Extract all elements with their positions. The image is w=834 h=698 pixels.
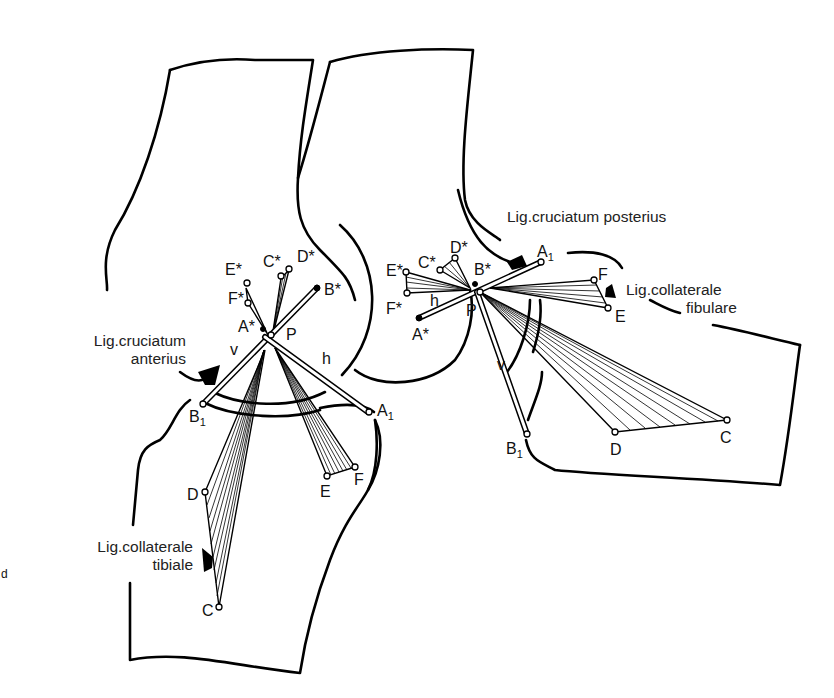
label-F: F [598,266,608,283]
label-lig-cruciatum-anterius-2: anterius [131,350,186,367]
label-lig-collaterale-tibiale-1: Lig.collaterale [97,538,193,555]
point-C [724,417,730,423]
left-knee: E* C* D* F* B* A* P v h B1 A1 D C E F Li… [94,59,394,673]
label-B1: B1 [506,440,523,460]
right-knee: Lig.cruciatum posterius Lig.collaterale … [298,49,800,485]
label-D: D [187,486,199,503]
label-lig-collaterale-fibulare-2: fibulare [686,299,737,316]
label-D-star: D* [450,239,468,256]
label-lig-collaterale-tibiale-2: tibiale [153,556,194,573]
point-C-star [437,267,443,273]
label-C: C [720,429,732,446]
left-tibia-outline [133,400,190,525]
left-anterior-arrow-icon [198,365,220,385]
point-C [216,604,222,610]
label-lig-cruciatum-posterius: Lig.cruciatum posterius [507,208,667,225]
label-A1: A1 [377,402,394,422]
right-femur-outline [330,49,500,240]
label-v: v [230,341,238,358]
point-E [324,473,330,479]
right-arc-4 [528,372,542,420]
point-D [202,489,208,495]
right-tibia-top [713,325,800,345]
label-C-star: C* [418,254,436,271]
label-E: E [615,308,626,325]
left-arc-joint2 [205,403,320,416]
label-h: h [322,350,331,367]
label-C-star: C* [263,253,281,270]
label-B-star: B* [474,261,491,278]
label-lig-collaterale-fibulare-1: Lig.collaterale [626,281,722,298]
knee-ligament-diagram: E* C* D* F* B* A* P v h B1 A1 D C E F Li… [0,0,834,698]
left-tibiale-arrow-icon [202,548,213,572]
point-E-star [244,280,250,286]
point-E [605,305,611,311]
point-D [612,429,618,435]
point-P [268,332,274,338]
point-F [352,464,358,470]
label-P: P [286,326,297,343]
point-B-star [473,282,478,287]
right-fibulare-arrow-icon [605,284,616,298]
point-F-star [245,300,251,306]
point-B-star [314,285,320,291]
label-E-star: E* [225,261,242,278]
point-P [477,289,483,295]
right-tibia-outline [526,345,800,485]
point-C-star [278,273,284,279]
point-A-star [416,315,422,321]
label-D-star: D* [297,248,315,265]
point-B1 [524,431,530,437]
point-B1 [200,401,206,407]
label-C: C [202,602,214,619]
point-A-star [261,327,266,332]
label-D: D [610,441,622,458]
label-F-star: F* [386,300,402,317]
label-E: E [320,483,331,500]
point-A1 [366,409,372,415]
point-E-star [403,269,409,275]
right-fibulare-leader [650,300,680,313]
label-v: v [497,356,505,373]
label-B-star: B* [324,281,341,298]
label-E-star: E* [386,262,403,279]
point-D-star [286,266,292,272]
label-A-star: A* [412,326,429,343]
right-arc-fibulare-top [568,252,622,268]
label-B1: B1 [189,408,206,428]
right-fe-fan [490,280,608,308]
left-arc-lower [368,420,380,490]
label-lig-cruciatum-anterius-1: Lig.cruciatum [94,332,186,349]
point-F-star [404,290,410,296]
label-A-star: A* [238,318,255,335]
label-F-star: F* [228,290,244,307]
point-F [591,277,597,283]
label-h: h [430,292,439,309]
left-femur-shaft [106,70,170,290]
label-F: F [354,471,364,488]
label-P: P [466,302,477,319]
edge-text-fragment: d [1,567,8,581]
